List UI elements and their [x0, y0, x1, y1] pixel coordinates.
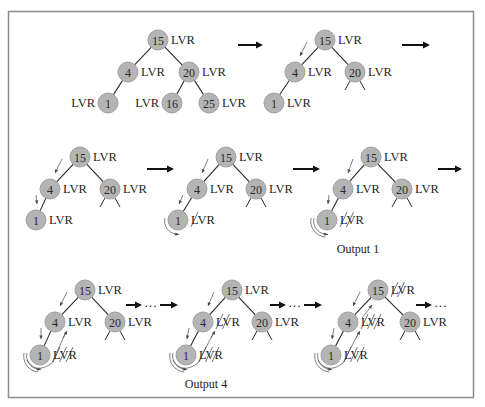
transition-8: ···: [416, 298, 447, 313]
tree-edge: [385, 297, 403, 315]
tree-edge: [113, 80, 122, 94]
transition-3: [147, 166, 174, 173]
lvr-label: LVR: [171, 33, 196, 47]
tree-node-15: 15LVR: [315, 30, 363, 50]
tree-edge: [332, 47, 348, 64]
panel-5: 15LVR4LVR20LVR1LVROutput 1: [311, 147, 440, 256]
tree-node-20: 20LVR: [345, 62, 393, 82]
tree-node-20: 20LVR: [105, 312, 153, 332]
node-value: 20: [250, 183, 262, 197]
node-value: 15: [152, 34, 164, 48]
panel-2: 15LVR4LVR20LVR1LVR: [264, 30, 393, 113]
tree-edge: [239, 297, 255, 314]
lvr-label: LVR: [423, 315, 448, 329]
tree-node-1: 1LVR: [264, 93, 312, 113]
step-arrowhead: [315, 302, 322, 309]
node-value: 4: [200, 316, 206, 330]
tree-edge: [62, 297, 78, 314]
step-arrowhead: [256, 42, 263, 49]
tree-edge: [191, 331, 199, 346]
tree-node-1: 1LVR: [176, 345, 224, 365]
lvr-label: LVR: [245, 283, 270, 297]
step-arrowhead: [171, 302, 178, 309]
tree-edge: [165, 47, 182, 65]
node-value: 4: [340, 183, 346, 197]
tree-edge: [332, 198, 339, 211]
tree-node-4: 4LVR: [40, 179, 88, 199]
step-arrowhead: [279, 302, 286, 309]
lvr-label: LVR: [93, 150, 118, 164]
subtree-stub: [252, 331, 257, 340]
arrowhead: [331, 335, 334, 339]
node-value: 4: [47, 183, 53, 197]
panel-8: 15LVR4LVR20LVR1LVR: [315, 280, 448, 372]
lvr-label: LVR: [368, 65, 393, 79]
tree-node-1: 1LVR: [71, 93, 118, 113]
transition-2: [402, 42, 430, 49]
subtree-stub: [415, 331, 420, 340]
node-value: 20: [104, 183, 116, 197]
lvr-label: LVR: [308, 65, 333, 79]
node-value: 1: [183, 349, 189, 363]
subtree-stub: [407, 198, 412, 207]
lvr-label: LVR: [239, 150, 264, 164]
tree-node-25: 25LVR: [199, 93, 247, 113]
tree-node-4: 4LVR: [193, 312, 241, 332]
ellipsis: ···: [288, 298, 301, 313]
subtree-stub: [100, 198, 105, 207]
ellipsis: ···: [144, 298, 157, 313]
node-value: 15: [319, 34, 331, 48]
tree-node-15: 15LVR: [148, 30, 196, 50]
node-value: 20: [349, 66, 361, 80]
lvr-label: LVR: [63, 182, 88, 196]
node-value: 15: [74, 151, 86, 165]
lvr-label: LVR: [222, 96, 247, 110]
panel-1: 15LVR4LVR20LVR1LVR16LVR25LVR: [71, 30, 246, 113]
node-value: 16: [166, 97, 178, 111]
panel-7: 15LVR4LVR20LVR1LVROutput 4: [170, 280, 300, 391]
arrowhead: [186, 335, 189, 339]
node-value: 25: [203, 97, 215, 111]
step-arrowhead: [423, 42, 430, 49]
tree-node-15: 15LVR: [361, 147, 409, 167]
tree-node-4: 4LVR: [45, 312, 93, 332]
tree-edge: [92, 297, 108, 314]
lvr-label: LVR: [68, 315, 93, 329]
tree-edge: [350, 165, 365, 182]
tree-node-20: 20LVR: [252, 312, 300, 332]
lvr-label: LVR: [71, 96, 96, 110]
step-arrowhead: [455, 166, 462, 173]
transition-5: [438, 166, 462, 173]
tree-node-4: 4LVR: [187, 179, 235, 199]
tree-node-15: 15LVR: [70, 147, 118, 167]
lvr-label: LVR: [202, 65, 227, 79]
tree-node-1: 1LVR: [30, 345, 78, 365]
subtree-stub: [115, 198, 120, 207]
tree-edge: [194, 80, 203, 94]
lvr-label: LVR: [338, 33, 363, 47]
lvr-label: LVR: [191, 213, 216, 227]
tree-edge: [183, 198, 192, 212]
tree-edge: [44, 331, 51, 346]
tree-edge: [204, 164, 220, 181]
node-value: 20: [256, 316, 268, 330]
tree-node-1: 1LVR: [168, 210, 216, 230]
tree-edge: [177, 81, 184, 94]
step-arrowhead: [313, 166, 320, 173]
tree-node-1: 1LVR: [321, 345, 369, 365]
subtree-stub: [267, 331, 272, 340]
node-value: 20: [404, 316, 416, 330]
step-arrowhead: [167, 166, 174, 173]
transition-4: [293, 166, 320, 173]
lvr-label: LVR: [123, 182, 148, 196]
tree-edge: [233, 164, 249, 181]
node-value: 20: [183, 66, 195, 80]
step-arrowhead: [135, 302, 142, 309]
lvr-label: LVR: [287, 96, 312, 110]
ellipsis: ···: [434, 298, 447, 313]
subtree-stub: [400, 331, 405, 340]
tree-edge: [40, 198, 46, 211]
lvr-label: LVR: [415, 182, 440, 196]
lvr-label: LVR: [98, 283, 123, 297]
subtree-stub: [105, 331, 110, 340]
